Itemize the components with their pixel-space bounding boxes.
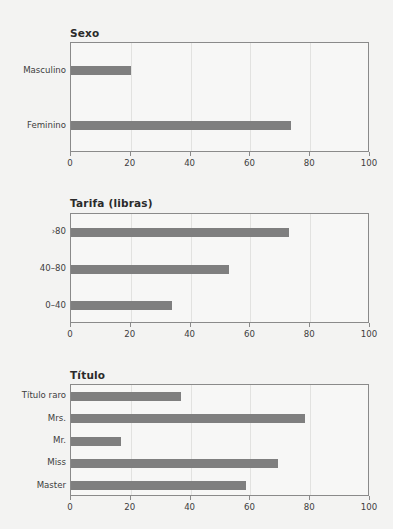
x-tick (70, 323, 71, 327)
x-tick-label: 80 (304, 329, 315, 339)
x-tick-label: 80 (304, 158, 315, 168)
gridline (310, 385, 311, 495)
gridline (131, 385, 132, 495)
x-tick (130, 323, 131, 327)
panel-title: Tarifa (libras) (70, 197, 153, 209)
x-tick (130, 152, 131, 156)
bar (71, 414, 305, 423)
x-tick-label: 60 (244, 502, 255, 512)
category-label: 0–40 (0, 300, 66, 310)
x-tick (190, 323, 191, 327)
x-tick-label: 20 (124, 329, 135, 339)
x-tick (190, 496, 191, 500)
x-tick-label: 100 (361, 158, 377, 168)
bar (71, 301, 172, 310)
x-tick (130, 496, 131, 500)
bar (71, 392, 181, 401)
bar (71, 481, 246, 490)
x-tick-label: 0 (67, 158, 72, 168)
bar (71, 459, 278, 468)
x-tick-label: 100 (361, 502, 377, 512)
gridline (250, 385, 251, 495)
x-tick-label: 20 (124, 158, 135, 168)
category-label: Feminino (0, 120, 66, 130)
x-tick (369, 496, 370, 500)
category-label: Masculino (0, 65, 66, 75)
x-tick (70, 496, 71, 500)
x-tick (249, 496, 250, 500)
x-tick-label: 20 (124, 502, 135, 512)
panel-title: Sexo (70, 27, 99, 39)
category-label: Miss (0, 457, 66, 467)
x-tick (309, 152, 310, 156)
x-tick (369, 323, 370, 327)
gridline (310, 43, 311, 151)
x-tick-label: 80 (304, 502, 315, 512)
category-label: Master (0, 480, 66, 490)
x-tick-label: 40 (184, 502, 195, 512)
gridline (191, 43, 192, 151)
x-tick (309, 496, 310, 500)
panel-title: Título (70, 369, 105, 381)
bar (71, 265, 229, 274)
bar (71, 121, 291, 130)
x-tick-label: 60 (244, 329, 255, 339)
x-tick-label: 0 (67, 329, 72, 339)
gridline (191, 385, 192, 495)
category-label: Título raro (0, 390, 66, 400)
x-tick-label: 40 (184, 329, 195, 339)
bar (71, 228, 289, 237)
x-tick-label: 40 (184, 158, 195, 168)
x-tick (309, 323, 310, 327)
x-tick (369, 152, 370, 156)
x-tick-label: 0 (67, 502, 72, 512)
plot-area (70, 42, 369, 152)
x-tick-label: 60 (244, 158, 255, 168)
x-tick (249, 152, 250, 156)
x-tick (249, 323, 250, 327)
x-tick-label: 100 (361, 329, 377, 339)
plot-area (70, 384, 369, 496)
category-label: 40–80 (0, 263, 66, 273)
category-label: ›80 (0, 226, 66, 236)
x-tick (70, 152, 71, 156)
gridline (131, 43, 132, 151)
gridline (310, 214, 311, 322)
category-label: Mrs. (0, 413, 66, 423)
gridline (250, 43, 251, 151)
plot-area (70, 213, 369, 323)
category-label: Mr. (0, 435, 66, 445)
x-tick (190, 152, 191, 156)
bar (71, 66, 131, 75)
bar (71, 437, 121, 446)
